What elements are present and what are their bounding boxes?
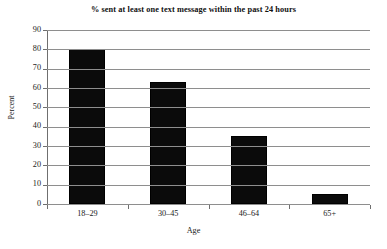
x-axis-tick: [370, 205, 371, 209]
x-axis-tick-label: 65+: [290, 209, 370, 218]
y-axis-tick: [43, 88, 47, 89]
y-axis-tick: [43, 49, 47, 50]
gridline: [47, 88, 370, 89]
gridline: [47, 69, 370, 70]
y-axis-tick: [43, 165, 47, 166]
y-axis-tick-label: 80: [5, 45, 41, 53]
bar: [150, 82, 186, 204]
x-axis-tick: [128, 205, 129, 209]
x-axis-tick-label: 18–29: [47, 209, 127, 218]
y-axis-tick-label: 0: [5, 200, 41, 208]
y-axis-tick: [43, 107, 47, 108]
x-axis-tick: [47, 205, 48, 209]
y-axis-tick-label: 50: [5, 103, 41, 111]
x-axis-tick: [289, 205, 290, 209]
bars-layer: [47, 30, 370, 204]
y-axis-tick-label: 70: [5, 64, 41, 72]
x-axis-title: Age: [0, 226, 387, 235]
bar: [312, 194, 348, 204]
gridline: [47, 49, 370, 50]
gridline: [47, 165, 370, 166]
gridline: [47, 127, 370, 128]
x-axis-tick-label: 46–64: [209, 209, 289, 218]
y-axis-tick-label: 40: [5, 122, 41, 130]
bar-chart: % sent at least one text message within …: [0, 0, 387, 249]
y-axis-tick-label: 30: [5, 142, 41, 150]
gridline: [47, 107, 370, 108]
y-axis-tick: [43, 30, 47, 31]
x-axis-tick: [209, 205, 210, 209]
y-axis-tick: [43, 69, 47, 70]
y-axis-tick-label: 60: [5, 84, 41, 92]
x-axis-tick-label: 30–45: [128, 209, 208, 218]
y-axis-tick-label: 10: [5, 180, 41, 188]
y-axis-tick-label: 90: [5, 26, 41, 34]
y-axis-tick: [43, 146, 47, 147]
y-axis-tick: [43, 185, 47, 186]
y-axis-tick: [43, 127, 47, 128]
gridline: [47, 185, 370, 186]
y-axis-tick-labels: 9080706050403020100: [0, 0, 41, 249]
gridline: [47, 30, 370, 31]
gridline: [47, 146, 370, 147]
chart-title: % sent at least one text message within …: [0, 5, 387, 14]
y-axis-tick-label: 20: [5, 161, 41, 169]
plot-area: [47, 30, 370, 204]
